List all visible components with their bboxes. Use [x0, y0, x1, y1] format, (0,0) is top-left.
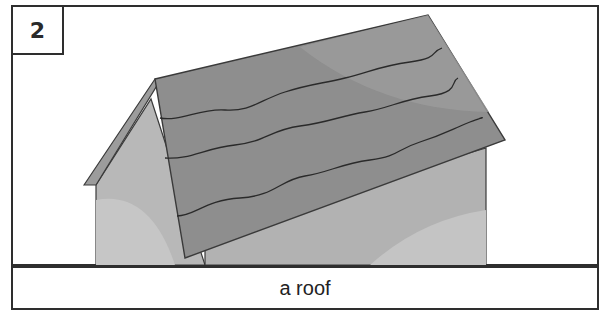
house-illustration	[0, 0, 602, 316]
panel-number: 2	[11, 5, 64, 55]
